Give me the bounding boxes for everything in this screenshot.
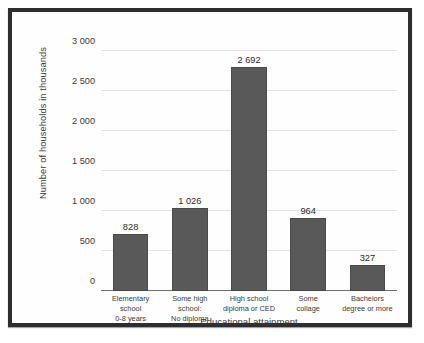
chart-frame-border: Number of households in thousands 05001 …	[8, 8, 412, 327]
bar-series: 8281 0262 692964327	[101, 51, 397, 291]
bar[interactable]	[113, 234, 149, 291]
bar-value-label: 2 692	[219, 55, 278, 65]
y-axis-tick-label: 1 500	[72, 156, 95, 166]
y-axis-title: Number of households in thousands	[38, 16, 48, 231]
x-axis-title: Educational attainment	[101, 316, 397, 327]
bar-slot: 2 692	[219, 51, 278, 291]
x-axis-category-label-line: collage	[280, 304, 337, 314]
x-axis-category-label-line: Some high school:	[161, 294, 218, 314]
x-axis-category-label-line: High school	[220, 294, 277, 304]
y-axis-tick-label: 1 000	[72, 196, 95, 206]
bar-slot: 828	[101, 51, 160, 291]
x-axis-category-label-line: diploma or CED	[220, 304, 277, 314]
y-axis-tick-label: 500	[80, 236, 95, 246]
x-axis-category-label-line: Bachelors	[339, 294, 396, 304]
y-axis-tick-label: 3 000	[72, 36, 95, 46]
x-axis-category-label-line: degree or more	[339, 304, 396, 314]
bar-chart: Number of households in thousands 05001 …	[13, 13, 409, 324]
x-axis-category-label-line: Elementary school	[102, 294, 159, 314]
bar-value-label: 964	[279, 206, 338, 216]
screenshot-page: Number of households in thousands 05001 …	[0, 0, 424, 343]
bar[interactable]	[172, 208, 208, 291]
bar[interactable]	[290, 218, 326, 291]
bar-slot: 1 026	[160, 51, 219, 291]
bar-value-label: 828	[101, 222, 160, 232]
bar[interactable]	[231, 67, 267, 291]
plot-area: 05001 0001 5002 0002 5003 000 8281 0262 …	[101, 51, 397, 291]
bar-value-label: 1 026	[160, 196, 219, 206]
y-axis-tick-label: 0	[90, 276, 95, 286]
y-axis-tick-label: 2 500	[72, 76, 95, 86]
x-axis-category-label-line: Some	[280, 294, 337, 304]
bar[interactable]	[350, 265, 386, 291]
bar-value-label: 327	[338, 253, 397, 263]
chart-frame-inner: Number of households in thousands 05001 …	[12, 12, 408, 323]
bar-slot: 964	[279, 51, 338, 291]
bar-slot: 327	[338, 51, 397, 291]
y-axis-tick-label: 2 000	[72, 116, 95, 126]
